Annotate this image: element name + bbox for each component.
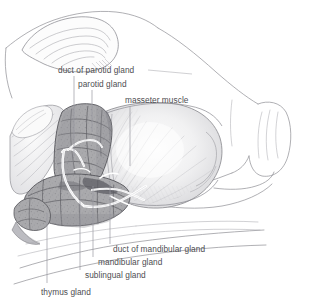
label-tick-marks: [148, 70, 192, 74]
label-thymus-gland: thymus gland: [41, 288, 91, 297]
label-sublingual-gland: sublingual gland: [85, 271, 146, 280]
label-duct-of-parotid-gland: duct of parotid gland: [58, 66, 134, 75]
label-masseter-muscle: masseter muscle: [125, 96, 188, 105]
snout-detail: [231, 100, 279, 160]
label-mandibular-gland: mandibular gland: [98, 258, 162, 267]
ear-pinna: [22, 17, 118, 72]
thymus-gland: [12, 198, 51, 244]
label-duct-of-mandibular-gland: duct of mandibular gland: [113, 245, 205, 254]
label-parotid-gland: parotid gland: [78, 80, 127, 89]
